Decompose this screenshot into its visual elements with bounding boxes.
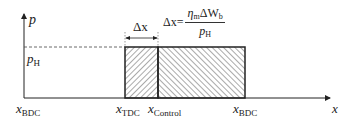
x-control-label: xControl <box>148 102 181 118</box>
pressure-level-label: pH <box>27 52 40 68</box>
x-axis-label: x <box>332 102 338 115</box>
stroke-delta-region <box>125 47 158 98</box>
formula-fraction: ηmΔWb pH <box>185 6 224 39</box>
delta-x-label: Δx <box>133 20 148 33</box>
x-bdc-left-label: xBDC <box>16 102 40 118</box>
remaining-stroke-region <box>158 47 245 98</box>
delta-x-formula: Δx= ηmΔWb pH <box>163 6 225 39</box>
y-axis-label: p <box>29 13 36 27</box>
x-tdc-label: xTDC <box>116 102 140 118</box>
formula-numerator: ηmΔWb <box>185 6 224 23</box>
formula-lhs: Δx= <box>163 15 183 30</box>
x-bdc-right-label: xBDC <box>233 102 257 118</box>
formula-denominator: pH <box>199 23 211 39</box>
